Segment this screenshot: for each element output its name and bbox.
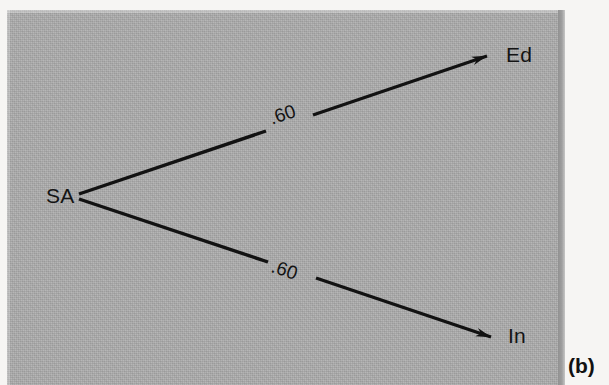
edge-sa-to-in-segment-right <box>316 278 491 337</box>
edge-sa-to-ed-segment-right <box>313 56 487 115</box>
edge-sa-to-in-segment-left <box>79 199 268 262</box>
figure-caption: (b) <box>568 355 595 376</box>
node-label-ed: Ed <box>506 44 532 65</box>
figure-page: SA Ed In .60 .60 (b) <box>0 0 609 385</box>
edge-sa-to-ed-segment-left <box>79 131 266 194</box>
node-label-in: In <box>508 325 526 346</box>
node-label-sa: SA <box>46 185 74 206</box>
